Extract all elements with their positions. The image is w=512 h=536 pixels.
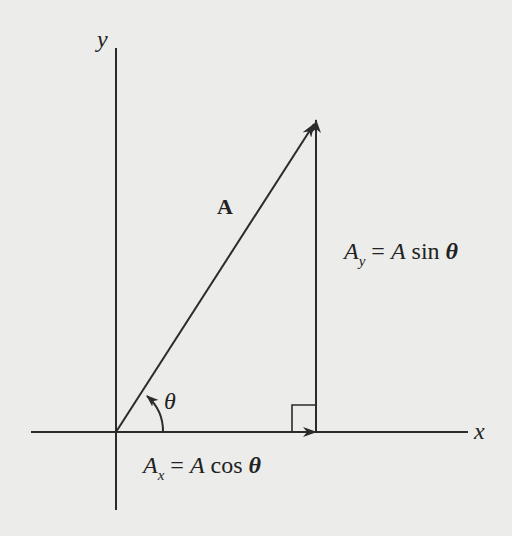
ay-fn: sin (412, 238, 440, 264)
ax-rhs-var: A (190, 452, 205, 478)
y-component-equation: Ay = A sin θ (344, 238, 458, 265)
y-axis-label: y (97, 26, 108, 53)
ax-fn: cos (211, 452, 243, 478)
ay-lhs: A (344, 238, 359, 264)
vector-a-arrow (116, 124, 314, 432)
ax-subscript: x (158, 467, 165, 483)
vector-diagram: y x A θ Ay = A sin θ Ax = A cos θ (0, 0, 512, 536)
ay-angle: θ (446, 238, 458, 264)
ax-angle: θ (249, 452, 261, 478)
ay-subscript: y (359, 253, 366, 269)
x-axis-label: x (474, 418, 485, 445)
angle-arc-arrow (147, 396, 163, 432)
right-angle-marker (292, 405, 316, 432)
angle-theta-label: θ (164, 388, 176, 415)
ay-rhs-var: A (391, 238, 406, 264)
ax-lhs: A (143, 452, 158, 478)
ay-equals: = (371, 238, 385, 264)
x-component-equation: Ax = A cos θ (143, 452, 261, 479)
vector-a-label: A (217, 194, 233, 220)
ax-equals: = (170, 452, 184, 478)
